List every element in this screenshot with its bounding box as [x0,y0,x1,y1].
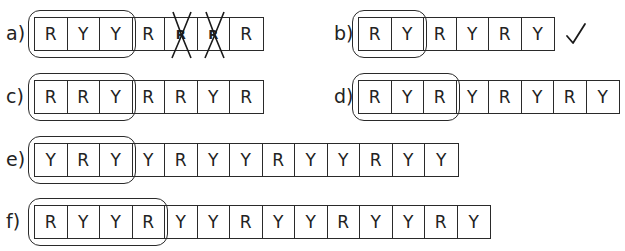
cell-letter: Y [467,87,477,107]
sequence-cell: Y [295,144,328,176]
sequence-cell: R [133,206,166,238]
sequence-cell: Y [425,144,458,176]
cell-letter: Y [111,150,121,170]
cell-letter: Y [208,212,218,232]
cell-letter: R [499,87,511,107]
cell-letter: Y [273,212,283,232]
cell-letter: R [434,87,446,107]
problem-row-d: d)RYRYRYRY [0,80,625,115]
sequence-cell: R [424,18,457,50]
sequence-cell: R [35,206,68,238]
cell-letter: R [435,212,447,232]
sequence-cell: Y [68,206,101,238]
sequence-cell: Y [165,206,198,238]
cell-letter: Y [241,150,251,170]
sequence-cell: R [489,18,522,50]
cell-letter: Y [467,24,477,44]
sequence-cell: Y [522,18,555,50]
sequence-cell: R [360,144,393,176]
cell-letter: R [175,150,187,170]
cell-letter: R [337,212,349,232]
cell-letter: R [434,24,446,44]
sequence-cell: Y [198,144,231,176]
cell-letter: R [142,212,154,232]
cell-letter: Y [402,87,412,107]
sequence-cell: Y [230,144,263,176]
sequence-cell: Y [392,18,425,50]
sequence-cell: Y [100,206,133,238]
cell-letter: Y [533,24,543,44]
cell-letter: R [499,24,511,44]
sequence-cell: Y [198,206,231,238]
check-icon [565,22,587,46]
cell-letter: Y [403,212,413,232]
problem-label: b) [334,16,353,51]
sequence-cell: R [554,81,587,113]
sequence-cell: Y [522,81,555,113]
cell-letter: Y [371,212,381,232]
sequence-strip: RYYRYYRYYRYYRY [34,205,491,239]
sequence-cell: Y [133,144,166,176]
sequence-cell: R [68,144,101,176]
sequence-cell: Y [360,206,393,238]
sequence-cell: R [165,144,198,176]
cell-letter: Y [306,150,316,170]
sequence-cell: R [328,206,361,238]
cell-letter: Y [403,150,413,170]
sequence-strip: RYRYRY [358,17,555,51]
cell-letter: Y [111,212,121,232]
sequence-cell: R [359,81,392,113]
sequence-cell: Y [328,144,361,176]
cell-letter: Y [598,87,608,107]
sequence-cell: Y [393,144,426,176]
cell-letter: R [370,150,382,170]
cell-letter: Y [143,150,153,170]
cell-letter: Y [78,212,88,232]
problem-label: f) [6,204,20,239]
cell-letter: Y [208,150,218,170]
cell-letter: R [45,212,57,232]
sequence-cell: Y [263,206,296,238]
sequence-cell: Y [295,206,328,238]
sequence-cell: Y [393,206,426,238]
sequence-cell: R [359,18,392,50]
cell-letter: R [272,150,284,170]
cell-letter: Y [532,87,542,107]
sequence-cell: R [230,206,263,238]
sequence-strip: YRYYRYYRYYRYY [34,143,459,177]
cell-letter: Y [402,24,412,44]
sequence-cell: Y [100,144,133,176]
cell-letter: R [369,87,381,107]
cell-letter: Y [469,212,479,232]
sequence-cell: Y [458,206,491,238]
cell-letter: Y [338,150,348,170]
cell-letter: R [77,150,89,170]
problem-label: d) [334,79,353,114]
cell-letter: Y [436,150,446,170]
cell-letter: R [564,87,576,107]
sequence-cell: Y [392,81,425,113]
sequence-cell: R [425,206,458,238]
sequence-cell: R [424,81,457,113]
cell-letter: Y [176,212,186,232]
cell-letter: R [240,212,252,232]
problem-label: e) [6,142,25,177]
sequence-cell: R [263,144,296,176]
sequence-strip: RYRYRYRY [358,80,620,114]
cell-letter: Y [46,150,56,170]
sequence-cell: Y [35,144,68,176]
sequence-cell: R [489,81,522,113]
sequence-cell: Y [457,81,490,113]
cell-letter: Y [306,212,316,232]
problem-row-b: b)RYRYRY [0,17,625,52]
problem-row-e: e)YRYYRYYRYYRYY [0,143,625,178]
sequence-cell: Y [457,18,490,50]
cell-letter: R [369,24,381,44]
sequence-cell: Y [587,81,620,113]
problem-row-f: f)RYYRYYRYYRYYRY [0,205,625,240]
